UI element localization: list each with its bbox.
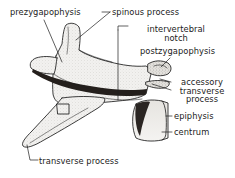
label-intervertebral-notch-line2: notch [164, 33, 188, 43]
label-centrum: centrum [174, 128, 209, 137]
leader-intervertebral-notch [118, 26, 128, 30]
label-postzygapophysis: postzygapophysis [140, 47, 215, 56]
leader-prezygapophysis [44, 20, 62, 62]
label-transverse-process: transverse process [39, 157, 119, 166]
label-spinous-process: spinous process [112, 8, 179, 17]
label-epiphysis: epiphysis [174, 112, 214, 121]
postzygapophysis-shape [148, 61, 171, 76]
label-prezygapophysis: prezygapophysis [10, 8, 81, 17]
label-intervertebral-notch: intervertebral notch [130, 25, 222, 42]
vertebra-diagram: prezygapophysis spinous process interver… [0, 0, 235, 178]
label-accessory-transverse-process: accessory transverse process [173, 78, 231, 104]
accessory-transverse-process-shape [146, 81, 169, 89]
ventral-nub-shape [57, 104, 69, 114]
leader-spinous-process-2 [76, 12, 110, 40]
label-accessory-line3: process [186, 94, 218, 104]
